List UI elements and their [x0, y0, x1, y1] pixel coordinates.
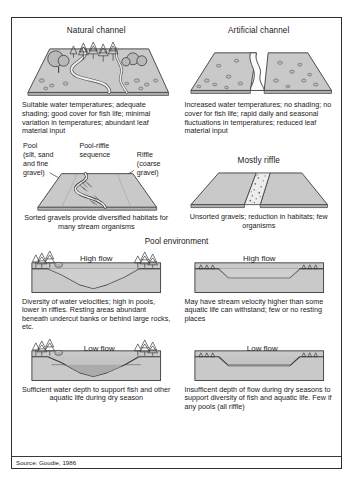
svg-text:and fine: and fine — [23, 159, 48, 167]
mostly-riffle-caption: Unsorted gravels; reduction in habitats;… — [185, 213, 334, 230]
artificial-channel-heading: Artificial channel — [185, 26, 334, 35]
natural-channel-cell: Natural channel — [18, 22, 177, 136]
natural-channel-caption: Suitable water temperatures; adequate sh… — [22, 101, 171, 135]
high-flow-natural-cross-section: High flow — [22, 247, 171, 295]
low-flow-artificial-cell: Low flow Insufficent depth of flow durin… — [177, 335, 336, 411]
middle-row: Pool (silt, sand and fine gravel) Pool-r… — [18, 140, 335, 231]
high-flow-row: High flow Diversity of water velocities;… — [18, 247, 335, 332]
low-flow-label-right: Low flow — [246, 344, 277, 353]
label-pool-line1: Pool — [23, 142, 38, 150]
pool-riffle-illustration: Pool (silt, sand and fine gravel) Pool-r… — [22, 140, 171, 213]
svg-text:(silt, sand: (silt, sand — [23, 151, 53, 159]
artificial-channel-caption: Increased water temperatures; no shading… — [185, 101, 334, 135]
mostly-riffle-cell: Mostly riffle — [177, 140, 336, 231]
figure-inner: Natural channel — [12, 18, 341, 468]
low-flow-label-left: Low flow — [84, 344, 115, 353]
figure-panel: Natural channel — [11, 17, 342, 469]
pool-riffle-caption: Sorted gravels provide diversified habit… — [22, 214, 171, 231]
low-flow-artificial-caption: Insufficent depth of flow during dry sea… — [185, 386, 334, 412]
mostly-riffle-illustration — [185, 167, 334, 213]
svg-text:(coarse: (coarse — [137, 159, 161, 167]
svg-text:Pool-riffle: Pool-riffle — [79, 142, 109, 150]
source-divider — [12, 456, 341, 457]
svg-text:gravel): gravel) — [23, 168, 45, 176]
natural-channel-heading: Natural channel — [22, 26, 171, 35]
low-flow-artificial-cross-section: Low flow — [185, 335, 334, 383]
high-flow-artificial-caption: May have stream velocity higher than som… — [185, 298, 334, 324]
artificial-channel-illustration — [185, 37, 334, 98]
high-flow-label-left: High flow — [80, 254, 113, 263]
source-note: Source: Goudie, 1986 — [16, 459, 76, 466]
low-flow-natural-cell: Low flow Sufficient water depth to suppo… — [18, 335, 177, 411]
high-flow-artificial-cell: High flow May have stream velocity highe… — [177, 247, 336, 332]
high-flow-natural-cell: High flow Diversity of water velocities;… — [18, 247, 177, 332]
artificial-channel-cell: Artificial channel — [177, 22, 336, 136]
high-flow-label-right: High flow — [242, 254, 275, 263]
low-flow-natural-cross-section: Low flow — [22, 335, 171, 383]
top-row: Natural channel — [18, 22, 335, 136]
high-flow-artificial-cross-section: High flow — [185, 247, 334, 295]
svg-text:sequence: sequence — [79, 151, 110, 159]
low-flow-natural-caption: Sufficient water depth to support fish a… — [22, 386, 171, 403]
low-flow-row: Low flow Sufficient water depth to suppo… — [18, 335, 335, 411]
pool-riffle-cell: Pool (silt, sand and fine gravel) Pool-r… — [18, 140, 177, 231]
natural-channel-illustration — [22, 37, 171, 98]
pool-environment-title: Pool environment — [18, 237, 335, 246]
svg-text:gravel): gravel) — [137, 168, 159, 176]
high-flow-natural-caption: Diversity of water velocities; high in p… — [22, 298, 171, 332]
mostly-riffle-heading: Mostly riffle — [185, 156, 334, 165]
svg-text:Riffle: Riffle — [137, 151, 153, 159]
